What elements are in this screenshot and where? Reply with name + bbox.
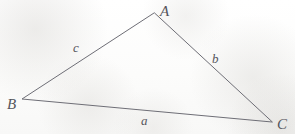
side-label-c: c — [73, 41, 79, 54]
vertex-label-c: C — [277, 117, 287, 132]
vertex-label-a: A — [160, 4, 169, 19]
vertex-label-b: B — [7, 97, 16, 112]
triangle-outline — [22, 13, 272, 122]
side-label-b: b — [212, 52, 219, 65]
triangle-figure: A B C a b c — [0, 0, 295, 134]
side-label-a: a — [141, 114, 148, 127]
